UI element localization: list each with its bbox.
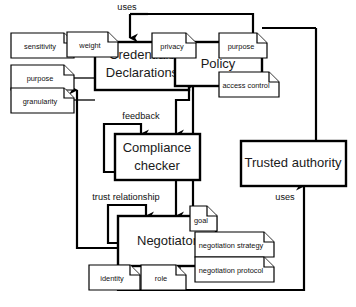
note-access-control: access control (219, 72, 279, 97)
relationship-diagram: feedback trust relationship uses uses (0, 0, 356, 307)
entity-label-policy: Policy (201, 56, 236, 71)
entity-trusted-authority: Trusted authority (241, 141, 346, 186)
note-label-weight: weight (78, 41, 100, 50)
note-label-granularity: granularity (23, 97, 58, 106)
entity-label-trusted-authority: Trusted authority (244, 155, 342, 170)
note-negotiation-protocol: negotiation protocol (195, 257, 274, 282)
note-label-privacy: privacy (160, 42, 184, 51)
diagram-canvas: feedback trust relationship uses uses (0, 0, 356, 307)
entity-label-compliance-line1: Compliance (123, 140, 192, 155)
edge-label-trust-relationship: trust relationship (92, 192, 159, 202)
note-label-negotiation-strategy: negotiation strategy (199, 241, 264, 250)
connector-negotiator-to-credentials (77, 90, 118, 248)
note-purpose-credentials: purpose (11, 65, 74, 90)
note-label-negotiation-protocol: negotiation protocol (199, 266, 264, 275)
note-negotiation-strategy: negotiation strategy (195, 232, 274, 257)
note-label-purpose-credentials: purpose (27, 74, 54, 83)
edge-label-feedback: feedback (122, 111, 160, 121)
note-label-goal: goal (194, 216, 208, 225)
note-goal: goal (190, 206, 217, 231)
note-granularity: granularity (11, 88, 74, 113)
note-privacy: privacy (152, 33, 196, 58)
note-label-purpose-policy: purpose (228, 42, 255, 51)
note-label-role: role (155, 274, 167, 283)
edge-label-uses-right: uses (275, 192, 295, 202)
note-label-access-control: access control (222, 81, 270, 90)
note-sensitivity: sensitivity (11, 33, 74, 58)
note-identity: identity (89, 265, 140, 290)
entity-label-credentials-line2: Declarations (106, 65, 179, 80)
note-label-sensitivity: sensitivity (24, 42, 56, 51)
entity-label-negotiator: Negotiator (137, 233, 198, 248)
note-role: role (141, 265, 186, 290)
entity-compliance-checker: Compliance checker (115, 134, 200, 180)
note-label-identity: identity (100, 274, 124, 283)
note-weight: weight (67, 32, 118, 57)
note-purpose-policy: purpose (219, 33, 267, 58)
edge-label-uses-top: uses (117, 2, 137, 12)
entity-label-compliance-line2: checker (134, 158, 180, 173)
